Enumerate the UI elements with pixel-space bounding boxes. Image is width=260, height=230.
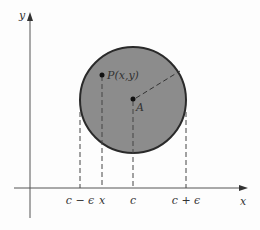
point-p [100, 73, 105, 78]
tick-label-x: x [99, 194, 106, 207]
x-axis-arrow-icon [239, 185, 248, 191]
diagram-svg: y x P(x,y) A c − ϵ x c c + ϵ [0, 0, 260, 230]
point-a-label: A [135, 101, 144, 114]
tick-label-c: c [130, 194, 136, 207]
y-axis-label: y [18, 9, 26, 22]
x-axis-label: x [240, 195, 247, 208]
tick-label-c-minus-eps: c − ϵ [66, 194, 95, 207]
point-p-label: P(x,y) [106, 69, 139, 82]
tick-label-c-plus-eps: c + ϵ [172, 194, 201, 207]
diagram-canvas: y x P(x,y) A c − ϵ x c c + ϵ [0, 0, 260, 230]
point-a-center [131, 97, 136, 102]
y-axis-arrow-icon [27, 12, 33, 21]
